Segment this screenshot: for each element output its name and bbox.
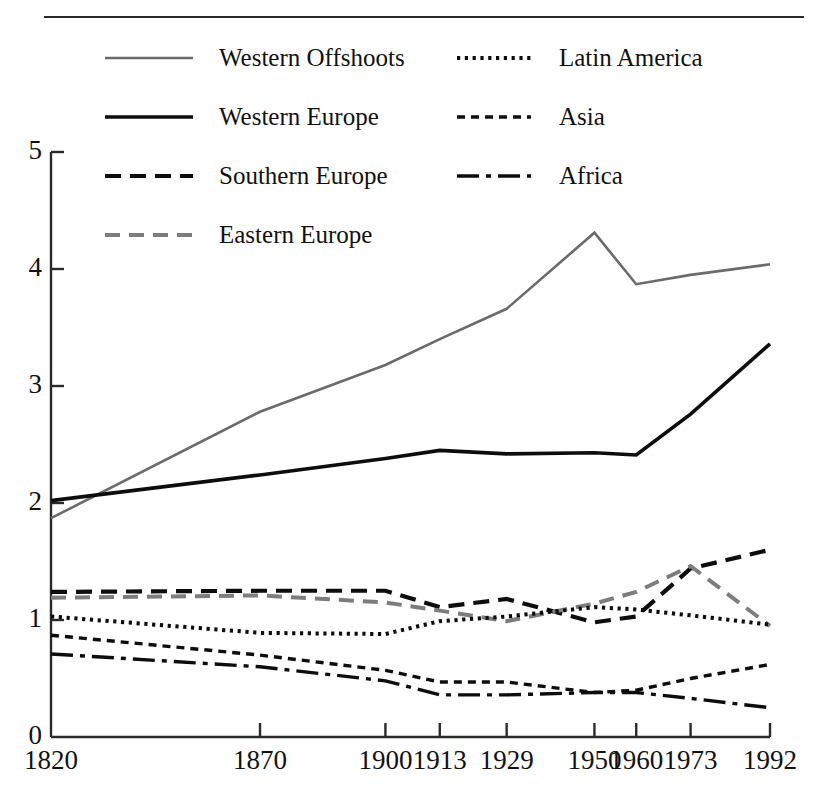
series-line — [51, 635, 770, 692]
x-axis-tick-label: 1870 — [225, 747, 295, 774]
x-axis-tick-label: 1973 — [656, 747, 726, 774]
series-line — [51, 344, 770, 501]
y-axis-tick-label: 2 — [8, 488, 42, 515]
x-axis-tick-label: 1929 — [472, 747, 542, 774]
y-axis-tick-label: 1 — [8, 605, 42, 632]
x-axis-tick-label: 1913 — [405, 747, 475, 774]
y-axis-tick-label: 4 — [8, 254, 42, 281]
figure: Western OffshootsWestern EuropeSouthern … — [0, 0, 819, 807]
chart-svg — [0, 0, 819, 807]
series-line — [51, 550, 770, 623]
series-line — [51, 233, 770, 518]
series-line — [51, 607, 770, 634]
x-axis-tick-label: 1992 — [735, 747, 805, 774]
plot-area: 0123451820187019001913192919501960197319… — [0, 0, 819, 807]
series-line — [51, 654, 770, 708]
y-axis-tick-label: 5 — [8, 137, 42, 164]
x-axis-tick-label: 1820 — [16, 747, 86, 774]
y-axis-tick-label: 3 — [8, 371, 42, 398]
series-line — [51, 566, 770, 626]
